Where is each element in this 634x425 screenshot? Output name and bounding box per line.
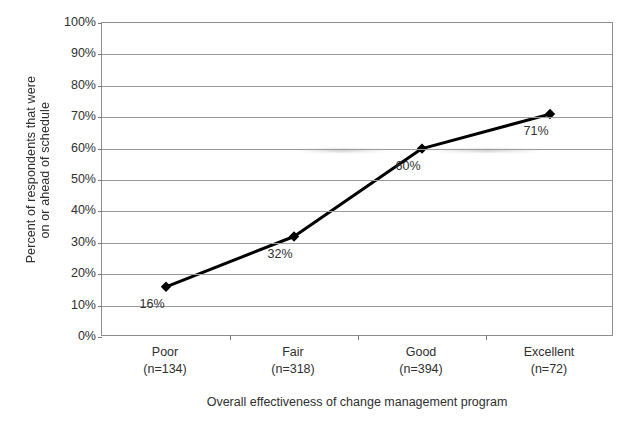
x-axis-category-count: (n=318) <box>229 361 357 378</box>
y-axis-tick-labels: 0%10%20%30%40%50%60%70%80%90%100% <box>52 0 96 425</box>
gridline <box>102 180 612 181</box>
y-axis-tick-label: 80% <box>52 79 96 92</box>
line-chart: Percent of respondents that were on or a… <box>0 0 634 425</box>
x-axis-title: Overall effectiveness of change manageme… <box>101 396 613 409</box>
y-axis-tick-label: 90% <box>52 47 96 60</box>
data-point-marker <box>161 282 171 292</box>
series-line <box>166 114 550 287</box>
y-axis-tick-label: 30% <box>52 236 96 249</box>
y-axis-tick-mark <box>98 180 102 181</box>
y-axis-tick-label: 10% <box>52 298 96 311</box>
gridline <box>102 211 612 212</box>
y-axis-tick-mark <box>98 243 102 244</box>
y-axis-tick-label: 20% <box>52 267 96 280</box>
x-axis-category: Excellent(n=72) <box>485 344 613 388</box>
gridline <box>102 149 612 150</box>
y-axis-tick-mark <box>98 211 102 212</box>
gridline <box>102 86 612 87</box>
y-axis-tick-mark <box>98 274 102 275</box>
x-axis-category: Poor(n=134) <box>101 344 229 388</box>
y-axis-tick-mark <box>98 23 102 24</box>
x-axis-category-labels: Poor(n=134)Fair(n=318)Good(n=394)Excelle… <box>101 344 613 388</box>
y-axis-tick-mark <box>98 86 102 87</box>
x-axis-category-name: Good <box>357 344 485 361</box>
data-point-label: 60% <box>395 160 420 173</box>
y-axis-title-line-2: on or ahead of schedule <box>39 102 52 238</box>
x-axis-category-name: Poor <box>101 344 229 361</box>
y-axis-tick-label: 60% <box>52 141 96 154</box>
y-axis-tick-mark <box>98 149 102 150</box>
gridline <box>102 117 612 118</box>
x-axis-tick-mark <box>230 335 231 340</box>
data-point-label: 32% <box>267 248 292 261</box>
data-point-label: 71% <box>523 125 548 138</box>
gridline <box>102 274 612 275</box>
data-point-label: 16% <box>139 298 164 311</box>
gridline <box>102 306 612 307</box>
x-axis-tick-mark <box>486 335 487 340</box>
x-axis-category: Good(n=394) <box>357 344 485 388</box>
y-axis-tick-label: 70% <box>52 110 96 123</box>
y-axis-tick-mark <box>98 117 102 118</box>
y-axis-tick-mark <box>98 337 102 338</box>
y-axis-tick-label: 40% <box>52 204 96 217</box>
y-axis-title-line-1: Percent of respondents that were <box>25 76 38 263</box>
x-axis-category-count: (n=134) <box>101 361 229 378</box>
y-axis-tick-label: 0% <box>52 330 96 343</box>
plot-area: 16%32%60%71% <box>101 22 613 336</box>
gridline <box>102 243 612 244</box>
gridline <box>102 54 612 55</box>
x-axis-tick-mark <box>358 335 359 340</box>
x-axis-category-count: (n=394) <box>357 361 485 378</box>
x-axis-category-count: (n=72) <box>485 361 613 378</box>
x-axis-category-name: Fair <box>229 344 357 361</box>
y-axis-tick-label: 50% <box>52 173 96 186</box>
y-axis-tick-mark <box>98 306 102 307</box>
x-axis-category-name: Excellent <box>485 344 613 361</box>
x-axis-category: Fair(n=318) <box>229 344 357 388</box>
y-axis-tick-label: 100% <box>52 16 96 29</box>
y-axis-tick-mark <box>98 54 102 55</box>
